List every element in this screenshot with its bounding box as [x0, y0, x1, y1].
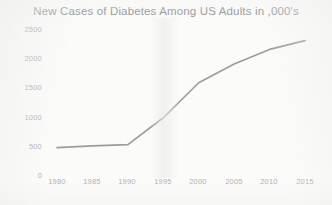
- series-line-chart: [0, 0, 332, 205]
- plot-area: 2500 2000 1500 1000 500 0 1980 1985 1990…: [0, 0, 332, 205]
- chart-screenshot: New Cases of Diabetes Among US Adults in…: [0, 0, 332, 205]
- series-line-path: [57, 41, 305, 148]
